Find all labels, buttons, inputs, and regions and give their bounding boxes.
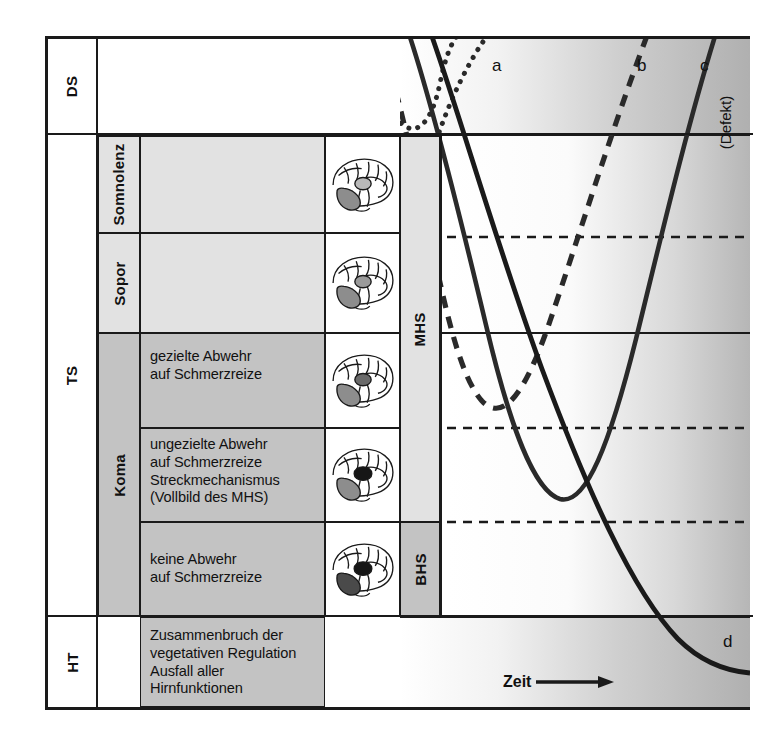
stage-row-ht: HT [48, 617, 98, 707]
desc-line: Zusammenbruch der [150, 627, 324, 645]
brain-icon [329, 445, 397, 505]
desc-koma-ungezielt: ungezielte Abwehr auf Schmerzreize Strec… [140, 428, 325, 522]
syndrome-label-bhs: BHS [412, 553, 429, 585]
desc-sopor [140, 233, 325, 333]
plot-area [400, 39, 750, 707]
time-axis-text: Zeit [503, 673, 531, 691]
desc-line: Ausfall aller [150, 663, 324, 681]
diagram-canvas: DS TS HT Somnolenz Sopor Koma gezielte A… [0, 0, 782, 752]
brain-icon [329, 253, 397, 313]
arrow-right-icon [536, 675, 614, 689]
diagram-frame: DS TS HT Somnolenz Sopor Koma gezielte A… [45, 36, 750, 710]
divider-ds-bottom [48, 133, 753, 135]
level-koma: Koma [98, 333, 140, 617]
curve-label-d: d [723, 632, 732, 652]
stage-row-ts: TS [48, 135, 98, 617]
syndrome-mhs: MHS [400, 135, 440, 522]
brain-cell-gezielt [325, 333, 400, 428]
level-somnolenz: Somnolenz [98, 135, 140, 233]
desc-line: keine Abwehr [150, 551, 324, 569]
thalamus-shade [354, 177, 370, 189]
curve-label-c: c [700, 56, 709, 76]
brain-icon [329, 540, 397, 600]
defekt-label: (Defekt) [716, 79, 736, 165]
stage-label-ts: TS [63, 365, 80, 385]
thalamus-shade [354, 467, 372, 481]
desc-koma-keine: keine Abwehr auf Schmerzreize [140, 522, 325, 617]
time-axis-label: Zeit [503, 673, 614, 691]
curve-label-b: b [637, 56, 646, 76]
stage-row-ds: DS [48, 39, 98, 135]
desc-ht: Zusammenbruch der vegetativen Regulation… [140, 617, 325, 707]
desc-line: (Vollbild des MHS) [150, 489, 324, 507]
brain-cell-sopor [325, 233, 400, 333]
thalamus-shade [354, 276, 370, 288]
ht-band-bg [400, 617, 750, 707]
cerebellum [336, 188, 359, 210]
brain-icon [329, 155, 397, 215]
cerebellum [336, 573, 359, 595]
syndrome-label-mhs: MHS [412, 312, 429, 346]
thalamus-shade [354, 561, 372, 575]
cerebellum [336, 478, 359, 500]
desc-line: auf Schmerzreize [150, 454, 324, 472]
brain-icon [329, 351, 397, 411]
curve-label-a: a [492, 56, 501, 76]
desc-line: auf Schmerzreize [150, 366, 324, 384]
plot-bg [447, 135, 750, 617]
thalamus-shade [354, 373, 370, 385]
stage-label-ds: DS [64, 75, 81, 96]
desc-line: ungezielte Abwehr [150, 436, 324, 454]
desc-somnolenz [140, 135, 325, 233]
defekt-text: (Defekt) [718, 95, 735, 148]
brain-cell-somnolenz [325, 135, 400, 233]
desc-line: vegetativen Regulation [150, 645, 324, 663]
brain-cell-ungezielt [325, 428, 400, 522]
level-label-somnolenz: Somnolenz [111, 144, 128, 226]
cerebellum [336, 384, 359, 406]
desc-line: gezielte Abwehr [150, 348, 324, 366]
ds-band-bg [400, 39, 750, 135]
stage-label-ht: HT [64, 652, 81, 672]
brain-cell-keine [325, 522, 400, 617]
desc-line: Hirnfunktionen [150, 680, 324, 698]
desc-line: auf Schmerzreize [150, 569, 324, 587]
syndrome-bhs: BHS [400, 522, 440, 617]
level-label-koma: Koma [111, 454, 128, 496]
divider-ht-top [48, 615, 753, 617]
cerebellum [336, 286, 359, 308]
desc-line: Streckmechanismus [150, 472, 324, 490]
desc-koma-gezielt: gezielte Abwehr auf Schmerzreize [140, 333, 325, 428]
level-label-sopor: Sopor [111, 261, 128, 305]
level-sopor: Sopor [98, 233, 140, 333]
curves-svg [400, 39, 750, 707]
plot-left-border [440, 135, 442, 617]
